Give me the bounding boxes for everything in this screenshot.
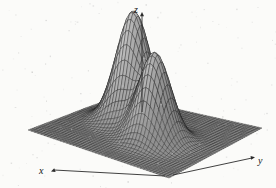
axis-label-y: y <box>258 156 262 166</box>
axis-label-x: x <box>39 166 43 176</box>
mesh-wireframe <box>28 11 262 178</box>
axis-label-z: z <box>134 5 138 15</box>
surface-plot-figure: z x y <box>0 0 276 188</box>
surface-mesh-canvas <box>0 0 276 188</box>
